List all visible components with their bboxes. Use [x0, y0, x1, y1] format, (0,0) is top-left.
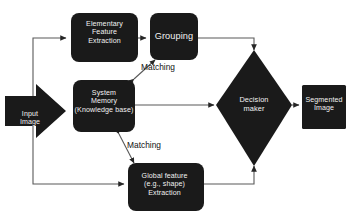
system-memory-shape	[73, 80, 135, 132]
segmented-image-shape	[302, 85, 346, 129]
edge-global-to-decision	[204, 166, 254, 184]
decision-maker-shape	[216, 50, 292, 166]
global-feature-extraction-shape	[128, 163, 204, 211]
diagram-canvas: Input Image Elementary Feature Extractio…	[0, 0, 363, 219]
diagram-graphics	[0, 0, 363, 219]
grouping-shape	[150, 13, 198, 60]
node-shapes	[5, 13, 346, 211]
edge-grouping-to-decision	[198, 38, 254, 50]
elementary-feature-extraction-shape	[71, 13, 138, 62]
matching-bottom-label: Matching	[127, 140, 161, 150]
input-image-shape	[5, 84, 66, 138]
matching-top-label: Matching	[141, 62, 175, 72]
